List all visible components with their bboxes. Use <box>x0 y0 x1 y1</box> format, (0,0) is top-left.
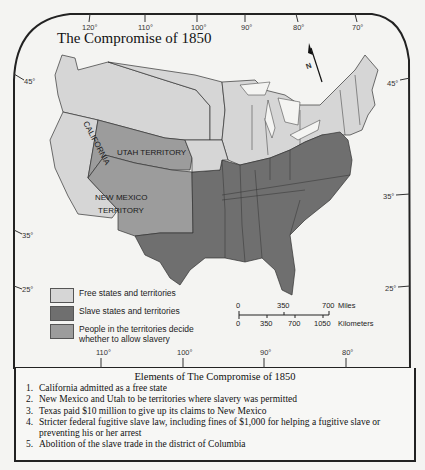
scale-miles-0: 0 <box>236 301 240 310</box>
element-text: Abolition of the slave trade in the dist… <box>39 439 246 450</box>
legend: Free states and territories Slave states… <box>50 288 209 347</box>
bottom-lon-110: 110° <box>96 348 111 357</box>
element-item: 4.Stricter federal fugitive slave law, i… <box>26 417 414 440</box>
scale-km-1050: 1050 <box>314 319 331 328</box>
element-text: California admitted as a free state <box>39 383 167 394</box>
scale-km-700: 700 <box>288 319 301 328</box>
elements-title: Elements of The Compromise of 1850 <box>16 371 414 382</box>
elements-list: 1.California admitted as a free state 2.… <box>16 383 414 451</box>
legend-swatch-free <box>50 288 74 303</box>
element-text: Stricter federal fugitive slave law, inc… <box>39 417 414 440</box>
element-item: 1.California admitted as a free state <box>26 383 414 394</box>
element-number: 4. <box>26 417 39 440</box>
lat-left-25: 25° <box>22 285 33 294</box>
lon-label-70: 70° <box>352 23 363 32</box>
scale-miles-350: 350 <box>277 301 290 310</box>
legend-item-popular-sovereignty: People in the territories decide whether… <box>50 324 209 344</box>
lon-label-80: 80° <box>293 23 304 32</box>
bottom-lon-90: 90° <box>260 348 271 357</box>
element-number: 3. <box>26 406 39 417</box>
element-item: 3.Texas paid $10 million to give up its … <box>26 406 414 417</box>
element-number: 1. <box>26 383 39 394</box>
map-title: The Compromise of 1850 <box>57 30 212 47</box>
element-number: 2. <box>26 394 39 405</box>
element-number: 5. <box>26 439 39 450</box>
legend-swatch-popular-sovereignty <box>50 324 74 339</box>
bottom-lon-100: 100° <box>177 348 193 357</box>
legend-label-free: Free states and territories <box>79 288 209 298</box>
scale-miles-unit: Miles <box>338 301 356 310</box>
legend-swatch-slave <box>50 306 74 321</box>
element-item: 5.Abolition of the slave trade in the di… <box>26 439 414 450</box>
lat-right-45: 45° <box>387 79 398 88</box>
lon-label-90: 90° <box>241 23 252 32</box>
scale-miles-700: 700 <box>322 301 335 310</box>
label-new-mexico-line2: TERRITORY <box>98 206 145 215</box>
legend-label-slave: Slave states and territories <box>79 306 209 316</box>
lat-right-25: 25° <box>385 284 396 293</box>
lat-left-45: 45° <box>24 77 35 86</box>
compromise-elements-box: Elements of The Compromise of 1850 1.Cal… <box>14 368 416 462</box>
element-item: 2.New Mexico and Utah to be territories … <box>26 394 414 405</box>
element-text: Texas paid $10 million to give up its cl… <box>39 406 267 417</box>
lat-left-35: 35° <box>22 231 33 240</box>
label-utah-territory: UTAH TERRITORY <box>117 148 187 157</box>
scale-bar: 0 350 700 Miles 0 350 700 1050 Kilometer… <box>236 301 416 331</box>
scale-km-0: 0 <box>236 319 240 328</box>
scale-km-350: 350 <box>260 319 273 328</box>
legend-item-free: Free states and territories <box>50 288 209 303</box>
element-text: New Mexico and Utah to be territories wh… <box>39 394 297 405</box>
label-new-mexico-line1: NEW MEXICO <box>95 193 147 202</box>
legend-label-popular-sovereignty: People in the territories decide whether… <box>79 324 209 344</box>
bottom-lon-80: 80° <box>342 348 353 357</box>
lat-right-35: 35° <box>383 192 394 201</box>
scale-km-unit: Kilometers <box>338 319 373 328</box>
legend-item-slave: Slave states and territories <box>50 306 209 321</box>
